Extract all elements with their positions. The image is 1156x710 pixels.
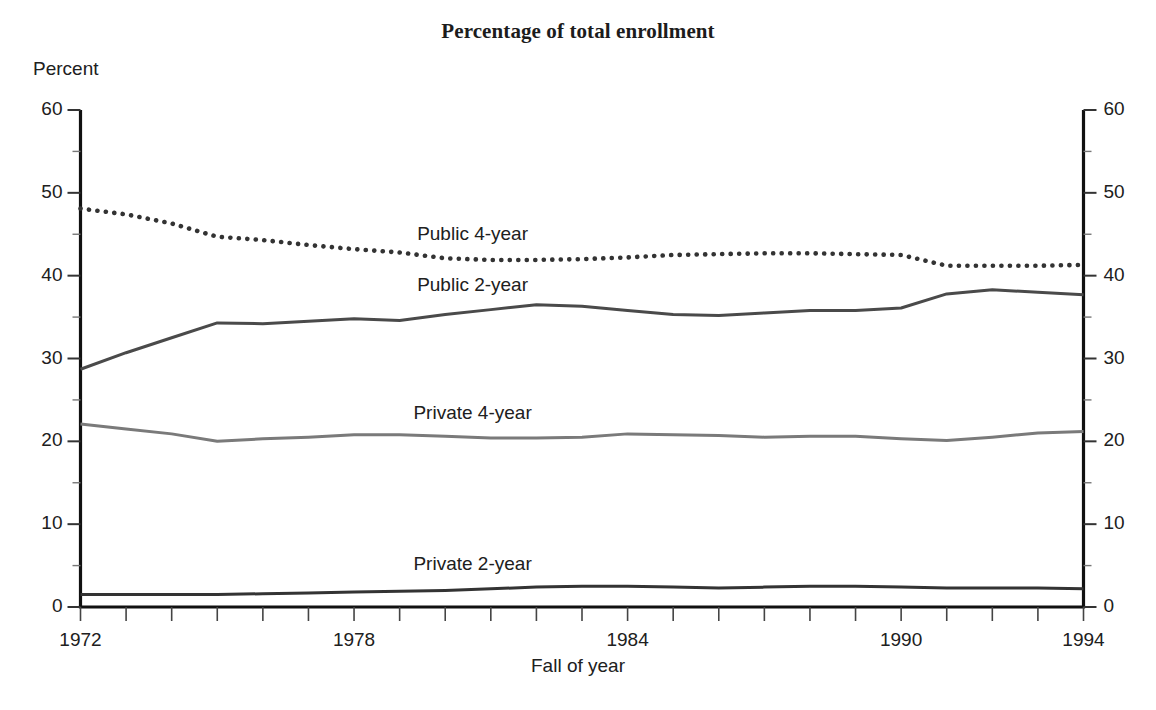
y-tick-label-right: 20 <box>1104 429 1125 451</box>
series-line-1 <box>81 290 1084 370</box>
series-label-2: Private 4-year <box>413 402 531 424</box>
series-label-0: Public 4-year <box>417 223 528 245</box>
y-tick-label-right: 40 <box>1104 264 1125 286</box>
y-tick-label-left: 40 <box>0 264 63 286</box>
y-tick-label-left: 20 <box>0 429 63 451</box>
y-tick-label-right: 50 <box>1104 181 1125 203</box>
series-line-2 <box>81 424 1084 441</box>
series-line-0 <box>81 209 1084 266</box>
axes <box>79 110 1085 607</box>
chart-figure: Percentage of total enrollment Percent F… <box>0 0 1156 710</box>
series-line-3 <box>81 586 1084 594</box>
x-tick-label: 1978 <box>294 629 414 651</box>
y-tick-label-left: 10 <box>0 512 63 534</box>
x-tick-label: 1984 <box>568 629 688 651</box>
y-tick-label-right: 60 <box>1104 98 1125 120</box>
y-tick-label-left: 30 <box>0 347 63 369</box>
y-tick-label-right: 0 <box>1104 595 1115 617</box>
x-tick-label: 1972 <box>21 629 141 651</box>
series-label-1: Public 2-year <box>417 274 528 296</box>
x-tick-label: 1994 <box>1024 629 1144 651</box>
axis-ticks <box>68 110 1097 621</box>
x-tick-label: 1990 <box>841 629 961 651</box>
series-label-3: Private 2-year <box>413 553 531 575</box>
data-series <box>81 209 1084 595</box>
y-tick-label-left: 50 <box>0 181 63 203</box>
y-tick-label-right: 30 <box>1104 347 1125 369</box>
y-tick-label-right: 10 <box>1104 512 1125 534</box>
y-tick-label-left: 60 <box>0 98 63 120</box>
y-tick-label-left: 0 <box>0 595 63 617</box>
plot-area <box>0 0 1156 710</box>
